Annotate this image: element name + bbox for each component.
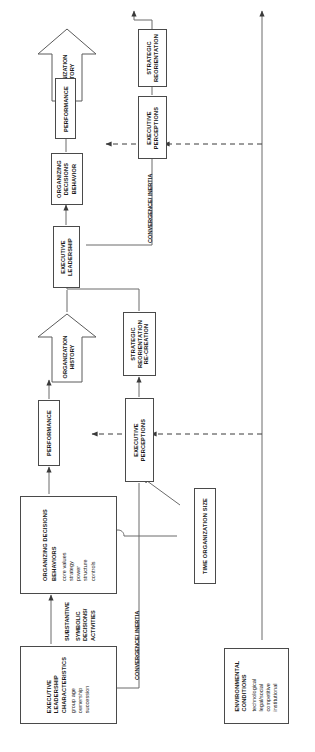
ec-line-2: CONDITIONS <box>241 661 248 712</box>
elc-item-1: group age <box>70 657 77 713</box>
epl-line-2: PERCEPTIONS <box>140 419 147 461</box>
sru-line-2: REORIENTATION <box>153 34 160 82</box>
odb-line-3: BEHAVIOR <box>71 160 78 198</box>
odb-line-1: ORGANIZING <box>56 160 63 198</box>
node-performance-upper: PERFORMANCE <box>55 78 76 139</box>
node-time-organization-size: TIME ORGANIZATION SIZE <box>194 488 216 584</box>
node-organizing-decisions: ORGANIZING DECISIONS BEHAVIORS core valu… <box>20 496 117 594</box>
ec-item-3: competitive <box>265 661 272 712</box>
caption-symbolic-line3: ACTIVITIES <box>90 609 97 641</box>
srr-line-3: RE-CREATION <box>143 320 150 368</box>
elc-line-3: CHARACTERISTICS <box>60 657 67 713</box>
elc-line-1: EXECUTIVE <box>46 657 53 713</box>
ec-item-4: institutional <box>272 661 279 712</box>
od-item-2: strategy <box>67 509 74 581</box>
elc-line-2: LEADERSHIP <box>53 657 60 713</box>
od-item-1: core values <box>60 509 67 581</box>
node-executive-leadership-characteristics: EXECUTIVE LEADERSHIP CHARACTERISTICS gro… <box>20 646 117 724</box>
node-environmental-conditions: ENVIRONMENTAL CONDITIONS technological l… <box>224 648 289 724</box>
caption-convergence-lower: CONVERGENCE/ INERTIA <box>134 611 140 680</box>
ec-item-2: legal/social <box>258 661 265 712</box>
caption-symbolic-line2: DECISIONS/ <box>82 609 89 641</box>
sru-line-1: STRATEGIC <box>146 34 153 82</box>
srr-line-2: REORIENTATION <box>136 320 143 368</box>
od-line-1: ORGANIZING DECISIONS <box>41 509 48 581</box>
srr-line-1: STRATEGIC <box>130 320 137 368</box>
caption-convergence-upper: CONVERGENCE/ INERTIA <box>147 174 153 243</box>
caption-substantive: SUBSTANTIVE <box>64 602 70 641</box>
elc-item-2: ownership <box>77 657 84 713</box>
node-executive-perceptions-lower: EXECUTIVE PERCEPTIONS <box>125 398 154 482</box>
edge-orgsize-to-perceptions <box>143 478 180 505</box>
org-history-lower-line1: ORGANIZATION <box>62 336 69 379</box>
node-executive-perceptions-upper: EXECUTIVE PERCEPTIONS <box>138 96 167 159</box>
caption-symbolic-line1: SYMBOLIC <box>75 609 82 641</box>
epu-line-2: PERCEPTIONS <box>153 106 160 148</box>
ec-line-1: ENVIRONMENTAL <box>234 661 241 712</box>
performance-lower-label: PERFORMANCE <box>46 410 53 456</box>
elc-item-3: succession <box>84 657 91 713</box>
node-strategic-reorientation-recreation: STRATEGIC REORIENTATION RE-CREATION <box>123 312 156 376</box>
epu-line-1: EXECUTIVE <box>146 106 153 148</box>
node-executive-leadership-upper: EXECUTIVE LEADERSHIP <box>53 226 80 288</box>
caption-symbolic: SYMBOLIC DECISIONS/ ACTIVITIES <box>75 609 97 641</box>
org-history-lower-line2: HISTORY <box>69 336 76 379</box>
od-item-4: structure <box>81 509 88 581</box>
elu-line-1: EXECUTIVE <box>60 238 67 276</box>
time-org-size-label: TIME ORGANIZATION SIZE <box>202 498 209 574</box>
od-line-2: BEHAVIORS <box>50 509 57 581</box>
performance-upper-label: PERFORMANCE <box>62 85 69 131</box>
org-history-lower-arrow: ORGANIZATION HISTORY <box>36 313 98 383</box>
diagram-canvas: ORGANIZATION HISTORY ORGANIZATION HISTOR… <box>0 0 315 752</box>
node-performance-lower: PERFORMANCE <box>38 400 60 466</box>
od-item-3: power <box>74 509 81 581</box>
elu-line-2: LEADERSHIP <box>67 238 74 276</box>
epl-line-1: EXECUTIVE <box>133 419 140 461</box>
node-organizing-decisions-behavior: ORGANIZING DECISIONS BEHAVIOR <box>51 153 83 205</box>
ec-item-1: technological <box>250 661 257 712</box>
odb-line-2: DECISIONS <box>63 160 70 198</box>
od-item-5: controls <box>89 509 96 581</box>
node-strategic-reorientation-upper: STRATEGIC REORIENTATION <box>138 29 167 87</box>
